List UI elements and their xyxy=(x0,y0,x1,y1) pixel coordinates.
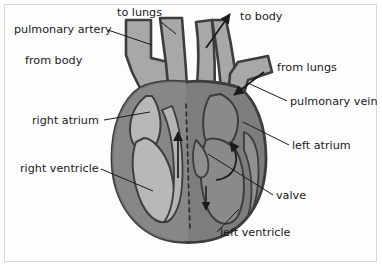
label-right-ventricle: right ventricle xyxy=(20,162,99,175)
label-to-body: to body xyxy=(240,10,283,23)
label-valve: valve xyxy=(276,189,306,202)
diagram-page: pulmonary artery to lungs to body from b… xyxy=(0,0,382,267)
label-left-atrium: left atrium xyxy=(292,139,351,152)
label-left-ventricle: left ventricle xyxy=(220,226,291,239)
heart-diagram: pulmonary artery to lungs to body from b… xyxy=(0,0,382,267)
label-pulmonary-vein: pulmonary vein xyxy=(290,95,377,108)
label-to-lungs: to lungs xyxy=(117,6,162,19)
label-from-body: from body xyxy=(25,54,83,67)
label-from-lungs: from lungs xyxy=(277,61,337,74)
heart-body-group xyxy=(112,81,266,242)
leader-pulmonary-vein xyxy=(250,84,287,101)
label-pulmonary-artery: pulmonary artery xyxy=(14,23,112,36)
label-right-atrium: right atrium xyxy=(32,114,99,127)
